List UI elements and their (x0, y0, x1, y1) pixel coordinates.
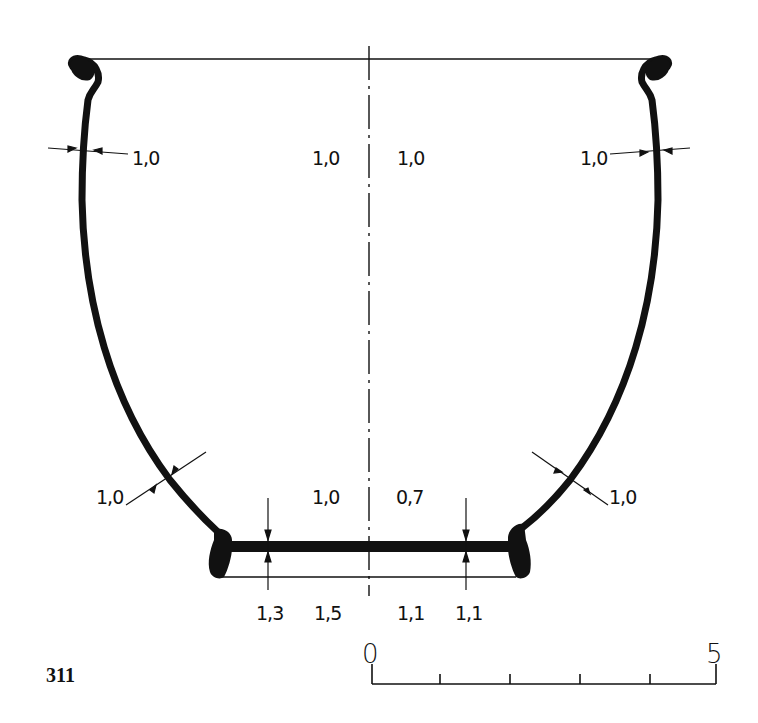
measure-left-upper-wall: 1,0 (132, 147, 159, 169)
scale-bar (372, 664, 716, 684)
scale-start-label: 0 (362, 639, 379, 669)
measure-right-lower-wall: 1,0 (609, 486, 636, 508)
measure-base-right-2: 1,1 (455, 602, 482, 624)
measure-center-lower-left: 1,0 (312, 486, 339, 508)
vessel-profile-drawing: 1,0 1,0 1,0 1,0 1,0 1,0 0,7 1,0 1,3 1,5 … (0, 0, 758, 723)
right-wall-profile (508, 58, 670, 578)
measure-base-left-1: 1,3 (256, 602, 283, 624)
scale-end-label: 5 (706, 639, 723, 669)
left-wall-profile (70, 58, 232, 578)
measure-center-upper-right: 1,0 (397, 147, 424, 169)
measure-center-upper-left: 1,0 (312, 147, 339, 169)
measure-right-upper-wall: 1,0 (580, 147, 607, 169)
measure-center-lower-right: 0,7 (396, 486, 423, 508)
base-plate (226, 541, 514, 552)
figure-number: 311 (46, 664, 75, 686)
measure-left-lower-wall: 1,0 (96, 486, 123, 508)
measure-base-left-2: 1,5 (314, 602, 341, 624)
measure-base-right-1: 1,1 (397, 602, 424, 624)
